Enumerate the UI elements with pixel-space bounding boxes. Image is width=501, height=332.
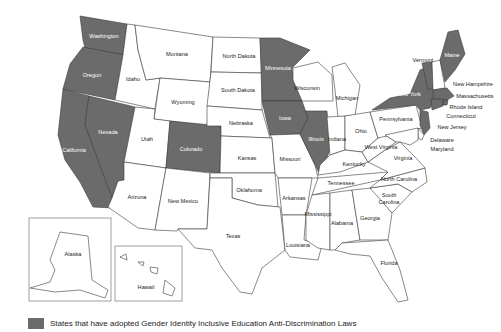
legend-swatch: [28, 318, 44, 329]
label-montana: Montana: [166, 51, 189, 57]
legend: States that have adopted Gender Identity…: [28, 318, 356, 329]
label-new-jersey: New Jersey: [437, 124, 466, 130]
label-pennsylvania: Pennsylvania: [379, 116, 413, 122]
label-mississippi: Mississippi: [304, 211, 331, 217]
label-louisiana: Louisiana: [286, 242, 311, 248]
label-minnesota: Minnesota: [265, 65, 292, 71]
label-tennessee: Tennessee: [327, 180, 354, 186]
label-colorado: Colorado: [180, 146, 203, 152]
label-virginia: Virginia: [394, 155, 413, 161]
label-iowa: Iowa: [279, 115, 292, 121]
label-georgia: Georgia: [360, 215, 381, 221]
label-ohio: Ohio: [355, 128, 367, 134]
label-utah: Utah: [141, 136, 153, 142]
label-california: California: [62, 147, 87, 153]
label-indiana: Indiana: [328, 136, 347, 142]
label-north-carolina: North Carolina: [381, 176, 418, 182]
state-michigan: [332, 63, 360, 117]
label-washington: Washington: [89, 33, 118, 39]
label-maryland: Maryland: [430, 146, 453, 152]
label-texas: Texas: [226, 233, 241, 239]
label-new-mexico: New Mexico: [168, 198, 198, 204]
label-south-carolina-1: South: [382, 192, 397, 198]
label-illinois: Illinois: [308, 136, 324, 142]
legend-label: States that have adopted Gender Identity…: [50, 319, 356, 328]
label-vermont: Vermont: [413, 57, 434, 63]
label-idaho: Idaho: [126, 76, 140, 82]
label-new-york: New York: [397, 91, 421, 97]
label-maine: Maine: [444, 52, 459, 58]
state-rhode-island: [443, 100, 448, 105]
label-west-virginia: West Virginia: [365, 144, 399, 150]
label-missouri: Missouri: [280, 156, 301, 162]
label-connecticut: Connecticut: [446, 113, 476, 119]
label-new-hampshire: New Hampshire: [453, 81, 493, 87]
label-alabama: Alabama: [331, 220, 354, 226]
label-arizona: Arizona: [128, 194, 148, 200]
label-wisconsin: Wisconsin: [294, 85, 320, 91]
label-kentucky: Kentucky: [342, 161, 365, 167]
label-kansas: Kansas: [238, 155, 257, 161]
label-nebraska: Nebraska: [229, 120, 254, 126]
state-connecticut: [431, 99, 443, 110]
label-hawaii: Hawaii: [138, 284, 155, 290]
state-new-jersey: [420, 110, 430, 135]
label-alaska: Alaska: [65, 251, 83, 257]
state-massachusetts: [433, 88, 454, 100]
label-arkansas: Arkansas: [282, 195, 306, 201]
label-north-dakota: North Dakota: [223, 53, 257, 59]
label-oregon: Oregon: [83, 72, 102, 78]
label-nevada: Nevada: [98, 129, 118, 135]
label-rhode-island: Rhode Island: [450, 104, 483, 110]
label-florida: Florida: [380, 260, 398, 266]
label-wyoming: Wyoming: [171, 99, 194, 105]
label-michigan: Michigan: [336, 95, 358, 101]
label-delaware: Delaware: [430, 137, 454, 143]
label-south-dakota: South Dakota: [221, 87, 256, 93]
label-oklahoma: Oklahoma: [236, 187, 262, 193]
label-massachusetts: Massachusetts: [456, 93, 494, 99]
us-map: Washington Oregon California Nevada Idah…: [0, 0, 501, 332]
label-south-carolina-2: Carolina: [379, 199, 401, 205]
state-florida: [335, 240, 408, 302]
